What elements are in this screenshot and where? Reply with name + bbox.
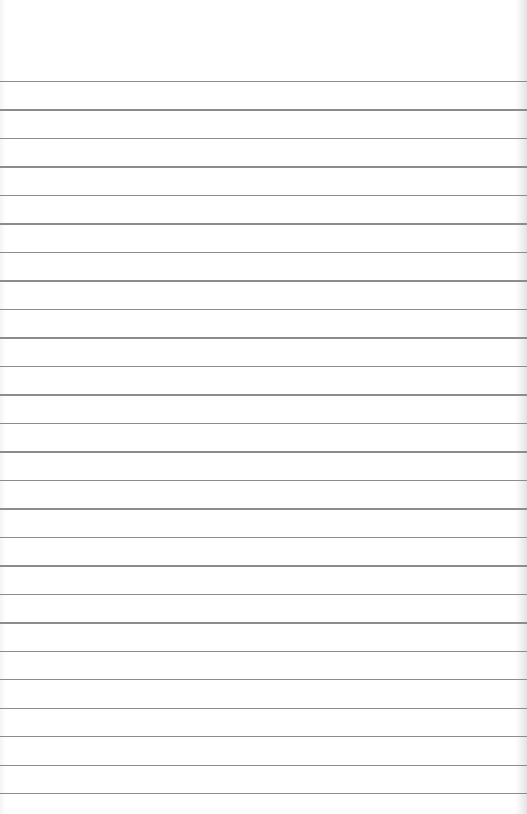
ruled-line	[0, 337, 527, 338]
ruled-line	[0, 537, 527, 538]
ruled-line	[0, 736, 527, 737]
ruled-line	[0, 223, 527, 224]
ruled-line	[0, 651, 527, 652]
ruled-line	[0, 252, 527, 253]
ruled-line	[0, 109, 527, 110]
ruled-line	[0, 679, 527, 680]
ruled-line	[0, 480, 527, 481]
ruled-line	[0, 195, 527, 196]
ruled-line	[0, 81, 527, 82]
ruled-line	[0, 451, 527, 452]
ruled-line	[0, 622, 527, 623]
ruled-line	[0, 138, 527, 139]
ruled-line	[0, 708, 527, 709]
ruled-line	[0, 423, 527, 424]
ruled-line	[0, 280, 527, 281]
ruled-line	[0, 394, 527, 395]
ruled-line	[0, 765, 527, 766]
lined-paper-sheet	[0, 0, 527, 814]
ruled-line	[0, 309, 527, 310]
ruled-line	[0, 594, 527, 595]
ruled-line	[0, 793, 527, 794]
ruled-line	[0, 166, 527, 167]
ruled-line	[0, 366, 527, 367]
ruled-line	[0, 508, 527, 509]
ruled-line	[0, 565, 527, 566]
